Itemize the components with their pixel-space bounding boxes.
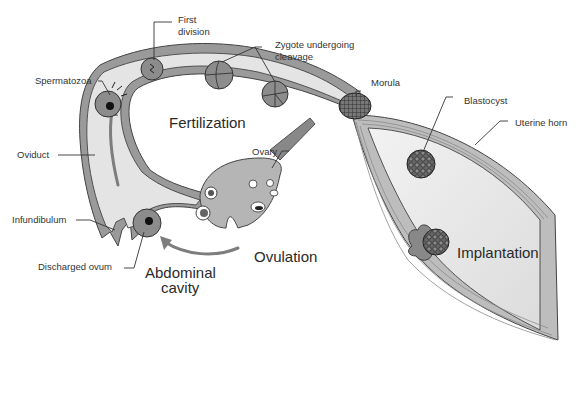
label-blastocyst: Blastocyst <box>464 95 508 106</box>
reproductive-diagram: Spermatozoa First division Zygote underg… <box>0 0 579 410</box>
discharged-ovum <box>133 209 161 237</box>
label-abdominal-2: cavity <box>161 279 200 296</box>
label-infundibulum: Infundibulum <box>12 214 66 225</box>
label-ovulation: Ovulation <box>254 248 317 265</box>
label-implantation: Implantation <box>457 244 539 261</box>
first-division-cell <box>141 58 163 80</box>
blastocyst <box>407 150 435 178</box>
label-spermatozoa: Spermatozoa <box>35 75 92 86</box>
label-fertilization: Fertilization <box>169 114 246 131</box>
label-zygote-1: Zygote undergoing <box>275 39 354 50</box>
label-zygote-2: cleavage <box>275 51 313 62</box>
ovary <box>196 118 315 228</box>
label-oviduct: Oviduct <box>17 149 50 160</box>
zygote-cleavage-cell-2 <box>262 81 288 107</box>
ovulation-arrow-icon <box>165 242 238 254</box>
morula <box>339 93 371 119</box>
zygote-cleavage-cell-1 <box>205 61 233 89</box>
label-uterine-horn: Uterine horn <box>515 117 567 128</box>
label-first-division-1: First <box>178 14 197 25</box>
ovulation-arrow-head-icon <box>160 236 172 250</box>
label-ovary: Ovary <box>252 146 278 157</box>
label-first-division-2: division <box>178 26 210 37</box>
label-morula: Morula <box>371 77 401 88</box>
label-discharged-ovum: Discharged ovum <box>38 261 112 272</box>
uterine-horn <box>352 115 558 340</box>
